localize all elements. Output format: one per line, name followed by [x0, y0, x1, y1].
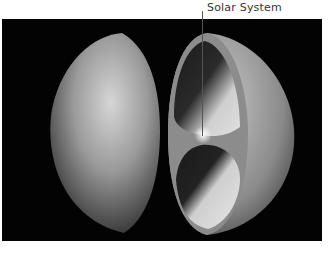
- left-hemisphere: [50, 33, 160, 233]
- solar-system-glow: [194, 126, 212, 144]
- illustration-panel: [2, 19, 322, 241]
- split-sphere-graphic: [2, 19, 322, 241]
- label-pointer-line: [202, 11, 203, 136]
- solar-system-label: Solar System: [207, 1, 282, 14]
